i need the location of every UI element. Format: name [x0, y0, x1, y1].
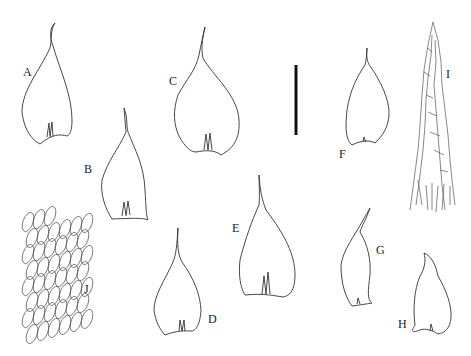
panel-label-e: E — [232, 222, 239, 234]
panel-label-j: J — [84, 283, 89, 295]
panel-label-g: G — [376, 244, 385, 256]
panel-label-a: A — [23, 66, 32, 78]
illustration-canvas — [0, 0, 471, 356]
leaf-c — [174, 27, 239, 155]
panel-label-f: F — [339, 148, 346, 160]
leaf-f — [346, 48, 389, 145]
panel-label-h: H — [398, 318, 407, 330]
leaf-d — [154, 228, 201, 335]
leaf-a — [22, 23, 72, 144]
panel-label-b: B — [84, 163, 92, 175]
apical-cells-i — [410, 22, 455, 212]
leaf-b — [102, 108, 148, 220]
panel-label-c: C — [169, 75, 177, 87]
laminal-cells-j — [20, 205, 95, 345]
leaf-e — [239, 175, 295, 297]
panel-label-i: I — [446, 68, 450, 80]
panel-label-d: D — [208, 313, 217, 325]
figure-plate: A B C D E F G H I J — [0, 0, 471, 356]
leaf-h — [413, 253, 452, 334]
leaf-g — [341, 208, 372, 306]
